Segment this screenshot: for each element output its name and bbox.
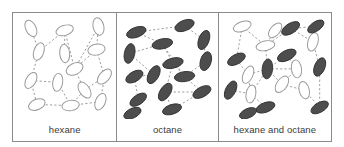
panel-mixture-stage [219, 13, 331, 119]
bond-network [31, 26, 105, 105]
octane-molecule-ellipse [261, 58, 274, 79]
panel-mixture-label: hexane and octane [219, 124, 331, 136]
hexane-molecule-ellipse [92, 92, 108, 112]
octane-molecule-ellipse [122, 105, 143, 119]
molecule-group [22, 17, 114, 113]
hexane-molecule-ellipse [95, 67, 115, 87]
hexane-molecule-ellipse [75, 80, 93, 100]
hexane-molecule-ellipse [55, 23, 75, 38]
octane-molecule-ellipse [156, 81, 175, 103]
octane-molecule-ellipse [162, 56, 185, 71]
hexane-molecule-ellipse [305, 31, 320, 52]
octane-molecule-ellipse [151, 37, 173, 51]
molecule-group [122, 17, 214, 119]
hexane-molecule-ellipse [27, 96, 47, 112]
octane-molecule-ellipse [221, 79, 239, 101]
octane-molecule-ellipse [225, 50, 247, 68]
octane-molecule-ellipse [123, 43, 137, 65]
panel-octane-label: octane [117, 124, 217, 136]
octane-molecule-ellipse [198, 50, 214, 72]
hexane-molecule-ellipse [232, 19, 253, 34]
octane-molecule-ellipse [125, 24, 147, 40]
octane-molecule-ellipse [238, 105, 258, 119]
hexane-molecule-ellipse [255, 39, 276, 52]
hexane-molecule-ellipse [297, 80, 311, 100]
hexane-molecule-ellipse [244, 84, 257, 104]
panel-hexane: hexane [13, 13, 116, 141]
hexane-molecule-ellipse [272, 74, 291, 95]
hexane-molecule-ellipse [31, 41, 46, 61]
octane-molecule-ellipse [128, 90, 149, 109]
octane-molecule-ellipse [311, 56, 328, 78]
octane-molecule-ellipse [124, 68, 145, 86]
panel-octane: octane [116, 13, 217, 141]
hexane-molecule-ellipse [91, 17, 105, 37]
octane-molecule-ellipse [161, 102, 183, 117]
panel-hexane-stage [13, 13, 116, 119]
figure-root: hexane octane hexane and octane [0, 0, 344, 147]
hexane-molecule-ellipse [290, 59, 303, 78]
hexane-molecule-ellipse [61, 99, 80, 112]
octane-molecule-ellipse [196, 29, 213, 51]
panel-octane-stage [117, 13, 217, 119]
octane-molecule-ellipse [254, 100, 276, 116]
hexane-molecule-ellipse [22, 18, 39, 38]
panel-hexane-label: hexane [13, 124, 116, 136]
octane-molecule-ellipse [145, 64, 163, 86]
hexane-molecule-ellipse [59, 44, 71, 63]
hexane-molecule-ellipse [51, 73, 63, 92]
octane-molecule-diagram [117, 13, 217, 119]
octane-molecule-ellipse [174, 70, 196, 83]
hexane-molecule-diagram [13, 13, 116, 119]
figure-frame: hexane octane hexane and octane [12, 12, 332, 142]
molecule-group [221, 17, 330, 119]
octane-molecule-ellipse [279, 19, 301, 38]
panel-mixture: hexane and octane [218, 13, 331, 141]
mixture-molecule-diagram [219, 13, 331, 119]
hexane-molecule-ellipse [87, 43, 106, 57]
